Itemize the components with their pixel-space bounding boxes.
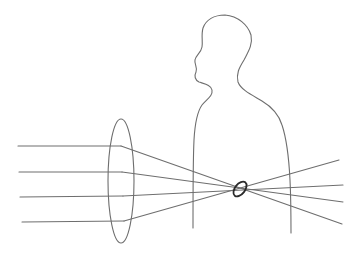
diagram-canvas	[0, 0, 360, 255]
ray-4-incoming	[22, 221, 124, 222]
convex-lens	[108, 119, 134, 243]
lens-focus-diagram	[0, 0, 360, 255]
ray-3-incoming	[20, 196, 123, 197]
refracted-rays	[121, 146, 343, 224]
focal-point-target	[231, 179, 249, 199]
